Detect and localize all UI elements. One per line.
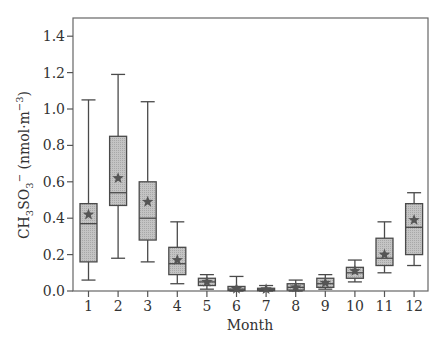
box-month-9: [317, 275, 334, 290]
box-month-6: [228, 276, 245, 293]
x-axis: 123456789101112: [84, 291, 423, 314]
box-month-4: [169, 222, 186, 284]
x-tick-label: 5: [202, 298, 211, 314]
y-tick-label: 0.6: [43, 174, 65, 190]
x-tick-label: 2: [114, 298, 123, 314]
y-tick-label: 1.4: [43, 28, 65, 44]
x-tick-label: 7: [262, 298, 271, 314]
box-month-1: [80, 100, 97, 280]
box-month-8: [287, 280, 304, 292]
x-tick-label: 10: [346, 298, 364, 314]
x-tick-label: 3: [143, 298, 152, 314]
x-tick-label: 1: [84, 298, 93, 314]
iqr-box: [406, 204, 423, 255]
y-tick-label: 0.8: [43, 137, 65, 153]
box-month-10: [346, 260, 363, 282]
y-tick-label: 1.2: [43, 65, 65, 81]
x-tick-label: 8: [291, 298, 300, 314]
x-tick-label: 4: [173, 298, 182, 314]
x-tick-label: 9: [321, 298, 330, 314]
box-plot-chart: 0.00.20.40.60.81.01.21.4 123456789101112…: [0, 0, 440, 343]
y-tick-label: 1.0: [43, 101, 65, 117]
y-axis: 0.00.20.40.60.81.01.21.4: [43, 28, 73, 299]
x-tick-label: 6: [232, 298, 241, 314]
svg-text:CH3SO3− (nmol·m−3): CH3SO3− (nmol·m−3): [14, 91, 35, 239]
y-tick-label: 0.2: [43, 247, 65, 263]
y-axis-label: CH3SO3− (nmol·m−3): [14, 91, 35, 239]
iqr-box: [139, 182, 156, 240]
y-tick-label: 0.4: [43, 210, 65, 226]
x-tick-label: 11: [376, 298, 394, 314]
y-tick-label: 0.0: [43, 283, 65, 299]
x-tick-label: 12: [405, 298, 423, 314]
box-series: [80, 74, 423, 294]
box-month-11: [376, 222, 393, 273]
iqr-box: [110, 136, 127, 205]
box-month-12: [406, 193, 423, 266]
box-month-3: [139, 102, 156, 262]
box-month-2: [110, 74, 127, 258]
box-month-5: [198, 275, 215, 290]
x-axis-label: Month: [227, 317, 273, 333]
